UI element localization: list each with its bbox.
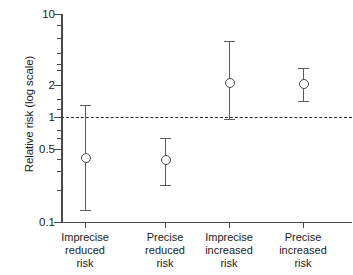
marker-point	[299, 79, 309, 89]
marker-point	[225, 78, 235, 88]
x-label-line: increased	[261, 244, 345, 257]
y-tick-2	[54, 85, 62, 86]
error-bar-cap-upper	[224, 41, 235, 42]
y-minor-tick-4	[57, 99, 62, 100]
x-tick-label-3: Imprecise increased risk	[187, 231, 271, 271]
y-minor-tick-0-8	[57, 138, 62, 139]
error-bar-cap-lower	[224, 119, 235, 120]
x-label-line: risk	[261, 257, 345, 270]
marker-point	[161, 155, 171, 165]
y-tick-10	[54, 14, 62, 15]
y-tick-0-5	[54, 149, 62, 150]
error-bar-cap-upper	[298, 68, 309, 69]
marker-point	[81, 153, 91, 163]
x-label-line: Imprecise	[43, 231, 127, 244]
error-bar-cap-lower	[298, 101, 309, 102]
error-bar-cap-lower	[160, 185, 171, 186]
y-minor-tick-6	[57, 70, 62, 71]
x-label-line: Imprecise	[187, 231, 271, 244]
reference-line-rr-1	[61, 117, 352, 118]
y-tick-label-1: 1	[49, 111, 55, 123]
x-axis-spine	[61, 222, 352, 224]
y-minor-tick-0-3	[57, 171, 62, 172]
y-axis-spine	[61, 14, 63, 223]
x-label-line: risk	[43, 257, 127, 270]
y-tick-label-10: 10	[42, 8, 55, 20]
y-tick-0-1	[54, 222, 62, 223]
error-bar-cap-upper	[160, 138, 171, 139]
y-minor-tick-0-4	[57, 159, 62, 160]
y-minor-tick-3	[57, 109, 62, 110]
y-minor-tick-0-9	[57, 130, 62, 131]
y-minor-tick-8	[57, 38, 62, 39]
x-label-line: increased	[187, 244, 271, 257]
x-tick-2	[165, 222, 166, 228]
y-tick-label-0-5: 0.5	[39, 143, 55, 155]
y-minor-tick-0-2	[57, 190, 62, 191]
relative-risk-forest-plot: Relative risk (log scale) 10 2 1 0.5 0.1…	[0, 0, 353, 275]
error-bar-cap-lower	[80, 210, 91, 211]
x-tick-1	[85, 222, 86, 228]
x-tick-label-4: Precise increased risk	[261, 231, 345, 271]
y-tick-label-0-1: 0.1	[39, 216, 55, 228]
x-label-line: reduced	[43, 244, 127, 257]
y-minor-tick-7	[57, 53, 62, 54]
x-tick-label-1: Imprecise reduced risk	[43, 231, 127, 271]
x-label-line: risk	[187, 257, 271, 270]
x-label-line: Precise	[261, 231, 345, 244]
x-tick-3	[229, 222, 230, 228]
y-minor-tick-5	[57, 64, 62, 65]
y-tick-label-2: 2	[49, 79, 55, 91]
x-tick-4	[303, 222, 304, 228]
error-bar-cap-upper	[80, 105, 91, 106]
y-axis-title: Relative risk (log scale)	[23, 19, 35, 209]
y-minor-tick-9	[57, 25, 62, 26]
